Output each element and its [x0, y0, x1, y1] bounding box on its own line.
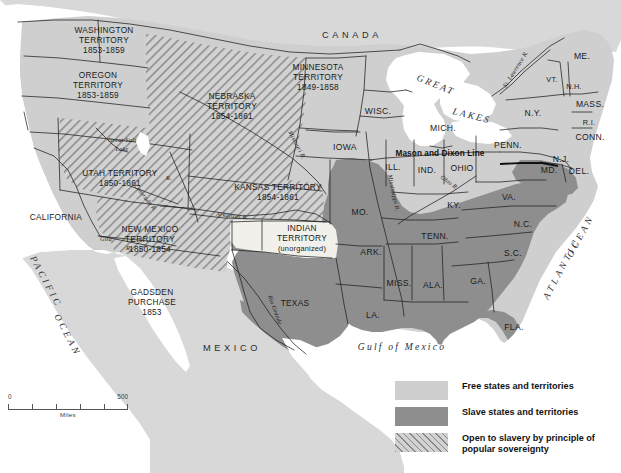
- label-state-mass: MASS.: [576, 99, 604, 109]
- label-great-salt-lake-line1: Great Salt: [108, 136, 136, 143]
- label-state-nc: N.C.: [514, 219, 532, 229]
- label-canada: CANADA: [322, 30, 382, 40]
- label-oregon-territory-l1: OREGON: [79, 70, 117, 80]
- label-colorado-river-abbrev: R.: [165, 174, 172, 181]
- label-state-tenn: TENN.: [421, 231, 448, 241]
- label-state-wisc: WISC.: [365, 106, 391, 116]
- label-state-sc: S.C.: [504, 248, 522, 258]
- legend-item-popular-sovereignty: Open to slavery by principle of popular …: [395, 433, 617, 456]
- label-new-mexico-territory-l2: TERRITORY: [125, 234, 175, 244]
- historical-map: CANADA MEXICO PACIFIC OCEAN ATLANTIC OCE…: [0, 0, 621, 473]
- scale-bar-min: 0: [8, 393, 12, 400]
- label-state-ga: GA.: [470, 276, 486, 286]
- label-state-mo: MO.: [351, 207, 368, 217]
- label-state-la: LA.: [366, 310, 380, 320]
- label-state-del: DEL.: [569, 166, 589, 176]
- label-oregon-territory-l3: 1853-1859: [77, 90, 119, 100]
- label-indian-territory-l1: INDIAN: [287, 223, 317, 233]
- label-state-ky: KY.: [447, 200, 461, 210]
- label-kansas-territory-l1: KANSAS TERRITORY: [234, 182, 322, 192]
- label-state-va: VA.: [502, 192, 516, 202]
- label-state-ark: ARK.: [360, 247, 381, 257]
- label-oregon-territory-l2: TERRITORY: [73, 80, 123, 90]
- legend-swatch-popular-sovereignty-icon: [395, 433, 448, 452]
- legend-swatch-slave-icon: [395, 407, 448, 426]
- legend-item-free: Free states and territories: [395, 381, 617, 400]
- legend-label-popular-sovereignty: Open to slavery by principle of popular …: [462, 433, 595, 456]
- label-nebraska-territory-l3: 1854-1861: [211, 111, 253, 121]
- legend-label-slave: Slave states and territories: [462, 407, 578, 418]
- label-state-mich: MICH.: [430, 123, 456, 133]
- scale-bar-line: [8, 402, 128, 410]
- map-scale-bar: 0 500 Miles: [8, 393, 128, 418]
- label-state-fla: FLA.: [504, 322, 523, 332]
- label-state-ri: R.I.: [583, 118, 595, 127]
- label-washington-territory-l1: WASHINGTON: [74, 25, 133, 35]
- label-minnesota-territory-l3: 1849-1858: [297, 82, 339, 92]
- label-new-mexico-territory-l1: NEW MEXICO: [122, 224, 179, 234]
- label-gadsden-purchase-l1: GADSDEN: [131, 287, 174, 297]
- label-washington-territory-l3: 1853-1859: [83, 45, 125, 55]
- label-washington-territory-l2: TERRITORY: [79, 35, 129, 45]
- label-state-ill: ILL.: [385, 162, 401, 172]
- label-gila-river: Gila: [100, 235, 112, 242]
- label-mason-and-dixon-line: Mason and Dixon Line: [396, 149, 485, 158]
- legend-label-popular-sovereignty-line2: popular sovereignty: [462, 444, 595, 455]
- label-state-ny: N.Y.: [525, 108, 542, 118]
- label-state-california: CALIFORNIA: [30, 212, 83, 222]
- label-state-iowa: IOWA: [333, 142, 357, 152]
- label-state-ind: IND.: [418, 165, 436, 175]
- map-legend: Free states and territories Slave states…: [395, 381, 617, 463]
- label-state-ala: ALA.: [423, 280, 443, 290]
- label-kansas-territory-l2: 1854-1861: [257, 192, 299, 202]
- label-minnesota-territory-l2: TERRITORY: [293, 72, 343, 82]
- label-state-conn: CONN.: [575, 132, 604, 142]
- label-state-me: ME.: [574, 51, 590, 61]
- label-gadsden-purchase-l2: PURCHASE: [128, 297, 176, 307]
- label-nebraska-territory-l2: TERRITORY: [207, 101, 257, 111]
- legend-swatch-free-icon: [395, 381, 448, 400]
- label-state-nh: N.H.: [566, 82, 582, 91]
- label-state-texas: TEXAS: [281, 298, 310, 308]
- label-utah-territory-l2: 1850-1861: [99, 178, 141, 188]
- label-minnesota-territory-l1: MINNESOTA: [293, 62, 344, 72]
- legend-label-free: Free states and territories: [462, 381, 574, 392]
- scale-bar-units: Miles: [8, 411, 128, 418]
- label-state-md: MD.: [541, 165, 558, 175]
- label-state-ohio: OHIO: [450, 163, 473, 173]
- label-state-penn: PENN.: [494, 140, 522, 150]
- label-indian-territory-l2: TERRITORY: [277, 233, 327, 243]
- legend-label-popular-sovereignty-line1: Open to slavery by principle of: [462, 433, 595, 444]
- legend-item-slave: Slave states and territories: [395, 407, 617, 426]
- label-state-vt: VT.: [546, 75, 557, 84]
- label-gadsden-purchase-l3: 1853: [142, 307, 162, 317]
- label-gulf-of-mexico: Gulf of Mexico: [358, 341, 446, 352]
- label-utah-territory-l1: UTAH TERRITORY: [82, 168, 157, 178]
- label-state-nj: N.J.: [553, 154, 569, 164]
- label-nebraska-territory-l1: NEBRASKA: [208, 91, 255, 101]
- label-new-mexico-territory-l3: 1850-1854: [129, 244, 171, 254]
- label-mexico: MEXICO: [203, 343, 261, 353]
- scale-bar-max: 500: [117, 393, 128, 400]
- label-state-miss: MISS.: [387, 278, 412, 288]
- label-great-salt-lake-line2: Lake: [114, 145, 128, 152]
- label-indian-territory-l3: (unorganized): [278, 244, 326, 253]
- scale-bar-numbers: 0 500: [8, 393, 128, 402]
